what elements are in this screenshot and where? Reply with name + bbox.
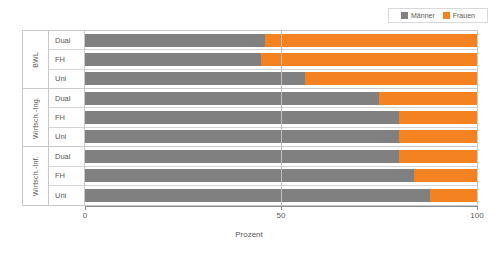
bar-segment-maenner (85, 111, 399, 124)
sub-label-bwl-uni: Uni (55, 74, 66, 83)
sub-label-cell: Dual (49, 89, 85, 107)
x-tick-50 (281, 206, 282, 210)
bar-row: FH (49, 167, 477, 187)
group-label-wirtsch-ing: Wirtsch.-Ing. (32, 97, 39, 139)
sub-label-cell: Uni (49, 128, 85, 146)
group-row-bwl: BWL Dual FH (23, 31, 477, 89)
bar-segment-frauen (399, 111, 477, 124)
x-axis-title: Prozent (0, 230, 498, 239)
sub-label-cell: Uni (49, 70, 85, 88)
bar-row: Dual (49, 31, 477, 50)
bar-stack-wirtsch-inf-dual (85, 150, 477, 163)
sub-label-wirtsch-ing-fh: FH (55, 113, 65, 122)
group-label-cell-bwl: BWL (23, 31, 49, 88)
group-label-cell-wirtsch-ing: Wirtsch.-Ing. (23, 89, 49, 146)
sub-label-wirtsch-ing-dual: Dual (55, 94, 70, 103)
bar-area (85, 50, 477, 68)
plot-area: BWL Dual FH (22, 30, 478, 206)
bar-segment-maenner (85, 169, 414, 182)
bar-area (85, 128, 477, 146)
bar-stack-bwl-uni (85, 72, 477, 85)
sub-label-cell: FH (49, 50, 85, 68)
sub-label-wirtsch-inf-fh: FH (55, 171, 65, 180)
bar-segment-frauen (399, 150, 477, 163)
legend-swatch-men-icon (401, 12, 408, 19)
bar-area (85, 147, 477, 166)
bar-row: Dual (49, 147, 477, 167)
bar-row: FH (49, 108, 477, 127)
sub-label-wirtsch-inf-uni: Uni (55, 191, 66, 200)
sub-label-wirtsch-inf-dual: Dual (55, 152, 70, 161)
sub-label-cell: FH (49, 108, 85, 126)
group-label-bwl: BWL (32, 52, 39, 68)
bar-segment-maenner (85, 130, 399, 143)
x-tick-label-50: 50 (277, 211, 286, 220)
bar-segment-maenner (85, 189, 430, 202)
bar-stack-wirtsch-ing-uni (85, 130, 477, 143)
bar-segment-maenner (85, 53, 261, 66)
bar-area (85, 167, 477, 186)
sub-label-cell: Dual (49, 147, 85, 166)
bar-row: Dual (49, 89, 477, 108)
bar-row: Uni (49, 70, 477, 88)
bar-segment-frauen (261, 53, 477, 66)
sub-label-bwl-fh: FH (55, 55, 65, 64)
bar-segment-frauen (379, 92, 477, 105)
bar-area (85, 89, 477, 107)
bar-segment-maenner (85, 72, 305, 85)
rows-cell-bwl: Dual FH (49, 31, 477, 88)
bar-area (85, 186, 477, 205)
x-tick-100 (477, 206, 478, 210)
sub-label-wirtsch-ing-uni: Uni (55, 132, 66, 141)
bar-stack-wirtsch-inf-fh (85, 169, 477, 182)
bar-area (85, 31, 477, 49)
bar-stack-bwl-dual (85, 34, 477, 47)
bar-segment-frauen (265, 34, 477, 47)
bar-row: FH (49, 50, 477, 69)
x-tick-label-100: 100 (470, 211, 483, 220)
group-label-cell-wirtsch-inf: Wirtsch.-Inf. (23, 147, 49, 205)
bar-segment-frauen (399, 130, 477, 143)
bar-stack-wirtsch-inf-uni (85, 189, 477, 202)
legend-swatch-women-icon (443, 12, 450, 19)
legend-entry-frauen: Frauen (443, 12, 475, 20)
rows-cell-wirtsch-inf: Dual FH (49, 147, 477, 205)
sub-label-cell: Uni (49, 186, 85, 205)
bar-segment-frauen (430, 189, 477, 202)
chart-legend: Männer Frauen (388, 8, 488, 23)
legend-label-frauen: Frauen (453, 12, 475, 20)
chart-root: Männer Frauen BWL Dual (0, 0, 498, 255)
group-label-wirtsch-inf: Wirtsch.-Inf. (32, 156, 39, 196)
bar-row: Uni (49, 128, 477, 146)
sub-label-cell: FH (49, 167, 85, 186)
bar-segment-frauen (305, 72, 477, 85)
sub-label-bwl-dual: Dual (55, 36, 70, 45)
group-row-wirtsch-ing: Wirtsch.-Ing. Dual FH (23, 89, 477, 147)
bar-segment-frauen (414, 169, 477, 182)
bar-stack-bwl-fh (85, 53, 477, 66)
x-tick-0 (85, 206, 86, 210)
bar-segment-maenner (85, 150, 399, 163)
bar-stack-wirtsch-ing-fh (85, 111, 477, 124)
bar-segment-maenner (85, 34, 265, 47)
bar-area (85, 108, 477, 126)
legend-entry-maenner: Männer (401, 12, 435, 20)
group-row-wirtsch-inf: Wirtsch.-Inf. Dual FH (23, 147, 477, 205)
bar-row: Uni (49, 186, 477, 205)
x-tick-label-0: 0 (83, 211, 87, 220)
bar-area (85, 70, 477, 88)
sub-label-cell: Dual (49, 31, 85, 49)
bar-stack-wirtsch-ing-dual (85, 92, 477, 105)
rows-cell-wirtsch-ing: Dual FH (49, 89, 477, 146)
bar-segment-maenner (85, 92, 379, 105)
legend-label-maenner: Männer (411, 12, 435, 20)
